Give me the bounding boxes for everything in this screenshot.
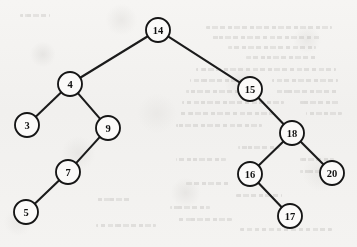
- tree-node-label-9: 9: [105, 123, 110, 134]
- tree-edge-14-to-15: [167, 36, 240, 83]
- tree-node-17[interactable]: 17: [278, 204, 302, 228]
- tree-edge-9-to-7: [75, 136, 100, 164]
- tree-node-3[interactable]: 3: [15, 113, 39, 137]
- tree-nodes-group: 14415391871620517: [14, 18, 344, 228]
- tree-node-5[interactable]: 5: [14, 200, 38, 224]
- tree-node-14[interactable]: 14: [146, 18, 170, 42]
- tree-node-label-5: 5: [23, 207, 28, 218]
- tree-edge-15-to-18: [258, 97, 285, 125]
- tree-node-label-3: 3: [24, 120, 29, 131]
- tree-node-7[interactable]: 7: [56, 160, 80, 184]
- tree-node-label-14: 14: [153, 25, 164, 36]
- tree-edges-group: [34, 36, 324, 208]
- tree-node-4[interactable]: 4: [58, 72, 82, 96]
- tree-node-label-16: 16: [245, 169, 255, 180]
- tree-node-15[interactable]: 15: [238, 77, 262, 101]
- tree-node-label-18: 18: [287, 128, 297, 139]
- tree-node-label-4: 4: [67, 79, 73, 90]
- tree-node-9[interactable]: 9: [96, 116, 120, 140]
- tree-edge-14-to-4: [79, 36, 148, 79]
- tree-node-label-7: 7: [65, 167, 70, 178]
- tree-node-16[interactable]: 16: [238, 162, 262, 186]
- tree-node-label-17: 17: [285, 211, 295, 222]
- tree-edge-16-to-17: [258, 182, 283, 208]
- tree-node-20[interactable]: 20: [320, 161, 344, 185]
- tree-node-label-20: 20: [327, 168, 337, 179]
- tree-node-18[interactable]: 18: [280, 121, 304, 145]
- tree-edge-18-to-16: [258, 141, 284, 167]
- tree-edge-4-to-3: [35, 92, 62, 118]
- tree-edge-7-to-5: [34, 180, 60, 205]
- tree-canvas: 14415391871620517: [0, 0, 357, 247]
- tree-edge-4-to-9: [77, 92, 101, 119]
- tree-node-label-15: 15: [245, 84, 255, 95]
- binary-search-tree-figure: 14415391871620517: [0, 0, 357, 247]
- tree-edge-18-to-20: [300, 141, 324, 165]
